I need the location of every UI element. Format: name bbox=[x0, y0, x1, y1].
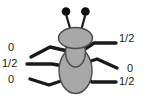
right-middle-leg-label: 0 bbox=[127, 63, 133, 74]
left-hind-leg-label: 0 bbox=[8, 74, 14, 85]
left-middle-leg-label: 1/2 bbox=[2, 58, 17, 69]
right-front-leg-label: 1/2 bbox=[119, 33, 134, 44]
ant-figure bbox=[0, 0, 145, 105]
head-ellipse bbox=[59, 28, 93, 49]
diagram-canvas: 0 1/2 0 1/2 0 1/2 bbox=[0, 0, 145, 105]
right-hind-leg-label: 1/2 bbox=[119, 76, 134, 87]
left-front-leg-label: 0 bbox=[8, 42, 14, 53]
antenna-tip-dot-right bbox=[81, 7, 90, 16]
body-group bbox=[59, 28, 93, 94]
antenna-tip-dot-left bbox=[62, 7, 71, 16]
